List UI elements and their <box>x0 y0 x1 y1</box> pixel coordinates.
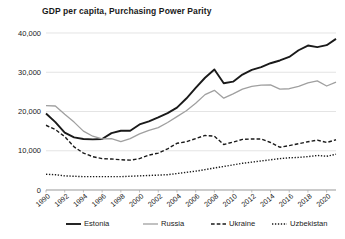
x-axis-tick-labels: 1990199219941996199820002002200420062008… <box>34 192 333 209</box>
y-tick-label: 30,000 <box>18 68 41 77</box>
x-tick-label: 2018 <box>296 192 314 209</box>
x-tick-label: 2004 <box>165 192 183 209</box>
x-tick-label: 2014 <box>258 192 276 209</box>
gridlines <box>46 33 336 190</box>
series-line-uzbekistan <box>46 154 336 176</box>
x-tick-label: 1996 <box>90 192 108 209</box>
chart-plot: 010,00020,00030,00040,000 19901992199419… <box>0 0 345 239</box>
legend-label-uzbekistan: Uzbekistan <box>290 219 328 228</box>
x-tick-label: 1992 <box>52 192 70 209</box>
x-tick-label: 1994 <box>71 192 89 209</box>
legend-label-ukraine: Ukraine <box>229 219 255 228</box>
series-line-ukraine <box>46 125 336 160</box>
y-tick-label: 20,000 <box>18 107 41 116</box>
x-tick-label: 2000 <box>127 192 145 209</box>
y-tick-label: 40,000 <box>18 29 41 38</box>
x-tick-label: 2016 <box>277 192 295 209</box>
x-tick-label: 2010 <box>221 192 239 209</box>
x-tick-label: 2020 <box>314 192 332 209</box>
y-tick-label: 0 <box>37 186 41 195</box>
x-tick-label: 2002 <box>146 192 164 209</box>
x-tick-label: 2012 <box>240 192 258 209</box>
chart-legend: EstoniaRussiaUkraineUzbekistan <box>66 219 328 228</box>
y-tick-label: 10,000 <box>18 146 41 155</box>
series-line-estonia <box>46 39 336 139</box>
y-axis-tick-labels: 010,00020,00030,00040,000 <box>18 29 41 195</box>
x-tick-label: 2006 <box>183 192 201 209</box>
x-tick-label: 1998 <box>109 192 127 209</box>
x-tick-label: 2008 <box>202 192 220 209</box>
legend-label-estonia: Estonia <box>84 219 110 228</box>
legend-label-russia: Russia <box>161 219 185 228</box>
chart-container: GDP per capita, Purchasing Power Parity … <box>0 0 345 239</box>
data-series-group <box>46 39 336 177</box>
